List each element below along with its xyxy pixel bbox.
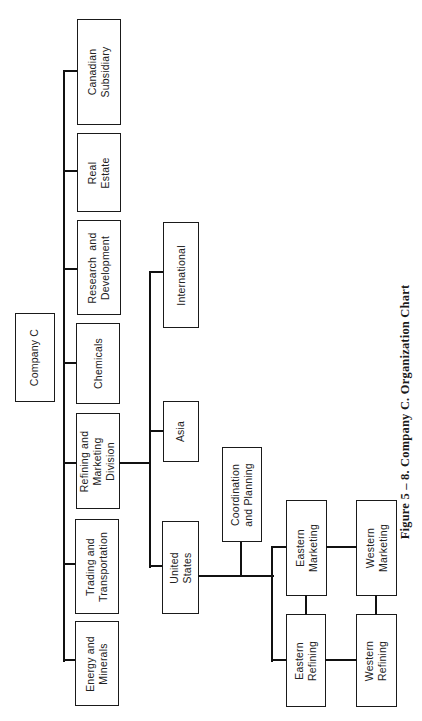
connector-er-wr [325, 659, 357, 661]
box-refining-marketing-division: Refining and Marketing Division [76, 413, 120, 509]
box-company-c: Company C [15, 313, 55, 402]
label-coordination-planning: Coordination and Planning [229, 463, 255, 527]
label-western-marketing: Western Marketing [364, 524, 390, 572]
connector-rm-division [63, 462, 77, 464]
box-chemicals: Chemicals [76, 323, 120, 404]
label-chemicals: Chemicals [92, 338, 105, 389]
connector-chemicals [63, 362, 77, 364]
box-international: International [163, 222, 199, 328]
box-western-refining: Western Refining [356, 614, 397, 707]
connector-eastern-refining [271, 659, 286, 661]
connector-rm-to-subspine [119, 462, 151, 464]
connector-united-states [149, 565, 163, 567]
box-asia: Asia [163, 401, 199, 462]
connector-real-estate [63, 170, 78, 172]
label-united-states: United States [168, 552, 194, 584]
label-refining-marketing-division: Refining and Marketing Division [79, 430, 118, 491]
label-eastern-refining: Eastern Refining [293, 640, 319, 680]
label-trading-transportation: Trading and Transportation [84, 531, 110, 601]
label-canadian-subsidiary: Canadian Subsidiary [86, 46, 112, 97]
label-western-refining: Western Refining [364, 640, 390, 680]
box-eastern-marketing: Eastern Marketing [286, 500, 327, 596]
connector-em-er [305, 595, 307, 615]
connector-rnd [63, 268, 78, 270]
connector-wm-wr [375, 595, 377, 615]
box-energy-minerals: Energy and Minerals [75, 621, 119, 706]
connector-international [149, 271, 163, 273]
box-real-estate: Real Estate [77, 133, 121, 212]
box-research-development: Research and Development [77, 220, 121, 315]
connector-us-to-regional [198, 575, 274, 577]
label-energy-minerals: Energy and Minerals [84, 636, 110, 692]
org-chart: Company C Canadian Subsidiary Real Estat… [0, 0, 422, 721]
label-eastern-marketing: Eastern Marketing [294, 524, 320, 572]
connector-eastern-marketing [271, 546, 286, 548]
main-spine [63, 70, 65, 662]
connector-asia [149, 430, 163, 432]
box-trading-transportation: Trading and Transportation [75, 519, 119, 614]
connector-coordination-stem [240, 541, 242, 577]
label-international: International [175, 245, 188, 305]
connector-canadian [63, 70, 78, 72]
label-research-development: Research and Development [86, 232, 112, 303]
figure-caption: Figure 5 – 8. Company C. Organization Ch… [398, 285, 413, 540]
box-eastern-refining: Eastern Refining [286, 614, 326, 707]
label-asia: Asia [174, 421, 187, 442]
label-company-c: Company C [29, 329, 42, 386]
box-united-states: United States [162, 521, 199, 614]
label-real-estate: Real Estate [86, 157, 112, 188]
us-regional-spine [271, 546, 273, 662]
connector-em-wm [326, 546, 357, 548]
rm-subspine [149, 271, 151, 568]
box-western-marketing: Western Marketing [356, 500, 397, 596]
box-coordination-planning: Coordination and Planning [222, 447, 262, 542]
box-canadian-subsidiary: Canadian Subsidiary [77, 19, 121, 125]
